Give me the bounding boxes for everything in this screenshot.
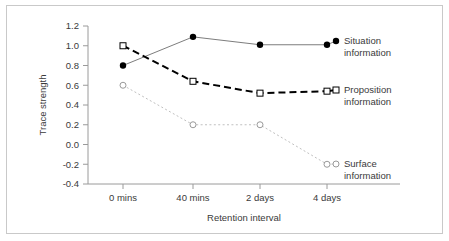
data-point-filled-circle [333,38,339,44]
data-point-open-circle [324,161,330,167]
x-tick-label: 4 days [313,192,341,203]
y-tick-label: -0.2 [63,159,79,170]
series-label-line2: information [344,47,391,58]
y-axis-title: Trace strength [37,75,48,136]
data-point-open-square [120,43,126,49]
figure-container: 1.21.00.80.60.40.20.0-0.2-0.4 0 mins40 m… [0,0,449,241]
data-point-open-square [324,88,330,94]
series-label-line2: information [344,96,391,107]
x-axis-title: Retention interval [207,212,281,223]
data-point-filled-circle [257,42,263,48]
x-axis-tick-labels: 0 mins40 mins2 days4 days [109,192,341,203]
x-tick-label: 40 mins [176,192,210,203]
x-tick-label: 0 mins [109,192,137,203]
data-point-filled-circle [190,34,196,40]
y-tick-label: 0.0 [66,139,79,150]
y-tick-label: 1.2 [66,20,79,31]
y-tick-label: 1.0 [66,40,79,51]
data-point-open-circle [257,122,263,128]
y-tick-label: 0.8 [66,60,79,71]
y-axis-ticks [83,26,88,184]
data-point-open-circle [120,82,126,88]
data-point-open-circle [333,161,339,167]
data-point-open-square [257,90,263,96]
y-tick-label: 0.2 [66,119,79,130]
data-point-open-square [333,87,339,93]
data-point-filled-circle [120,62,126,68]
series-line [123,85,327,164]
series-label-line1: Surface [344,158,377,169]
data-point-open-circle [190,122,196,128]
series-labels: SituationinformationPropositioninformati… [344,35,392,181]
y-tick-label: -0.4 [63,178,79,189]
data-point-open-square [190,78,196,84]
y-tick-label: 0.4 [66,99,79,110]
data-point-filled-circle [324,42,330,48]
series-label-line2: information [344,170,391,181]
line-chart: 1.21.00.80.60.40.20.0-0.2-0.4 0 mins40 m… [0,0,449,241]
y-tick-label: 0.6 [66,80,79,91]
series-lines [123,37,336,164]
series-label-line1: Proposition [344,84,392,95]
x-tick-label: 2 days [246,192,274,203]
y-axis-tick-labels: 1.21.00.80.60.40.20.0-0.2-0.4 [63,20,79,189]
series-label-line1: Situation [344,35,381,46]
x-axis-ticks [123,184,327,189]
